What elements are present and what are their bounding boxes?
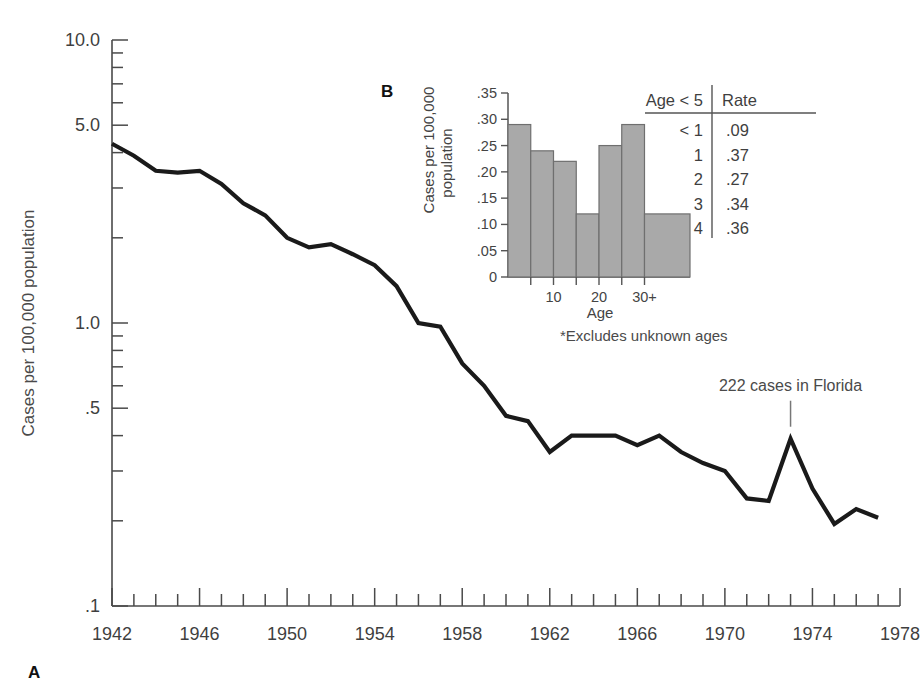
panel-a-group: 10.05.01.0.5.1 1942194619501954195819621… (19, 30, 920, 682)
panel-a-y-tick-label: .5 (85, 398, 100, 418)
panel-b-bar (554, 161, 577, 277)
annotation-label: 222 cases in Florida (719, 377, 862, 394)
panel-a-x-tick-label: 1958 (442, 624, 482, 644)
panel-b-y-tick-label: 0 (489, 269, 497, 285)
panel-b-letter: B (381, 82, 393, 101)
panel-a-x-tick-label: 1942 (92, 624, 132, 644)
figure-svg: 10.05.01.0.5.1 1942194619501954195819621… (0, 0, 921, 693)
panel-b-x-tick-labels: 102030+ (545, 289, 656, 305)
panel-a-y-tick-label: 10.0 (65, 30, 100, 50)
panel-b-y-axis-label-line2: population (438, 128, 455, 197)
table-col-header-rate: Rate (722, 91, 757, 109)
panel-b-bars (508, 125, 690, 277)
panel-b-x-tick-label: 30+ (632, 289, 657, 305)
figure-root: 10.05.01.0.5.1 1942194619501954195819621… (0, 0, 921, 693)
table-cell-rate: .34 (726, 195, 749, 213)
panel-b-bar (599, 146, 622, 277)
table-cell-rate: .36 (726, 219, 749, 237)
panel-a-x-ticks (112, 588, 900, 606)
panel-a-x-tick-label: 1954 (355, 624, 395, 644)
panel-b-y-ticks (501, 93, 508, 277)
panel-b-bar (622, 125, 645, 277)
table-cell-age: < 1 (680, 121, 703, 139)
panel-b-bar (508, 125, 531, 277)
panel-b-group: B 0.05.10.15.20.25.30.35 102030+ Cases p… (381, 82, 728, 344)
panel-a-x-tick-labels: 1942194619501954195819621966197019741978 (92, 624, 920, 644)
table-cell-rate: .09 (726, 121, 749, 139)
panel-a-x-tick-label: 1966 (617, 624, 657, 644)
panel-b-y-axis-label-line1: Cases per 100,000 (420, 87, 437, 214)
table-cell-rate: .37 (726, 146, 749, 164)
table-cell-age: 3 (694, 195, 703, 213)
panel-a-y-tick-label: 5.0 (75, 115, 100, 135)
panel-a-y-ticks (112, 40, 128, 606)
table-cell-rate: .27 (726, 170, 749, 188)
panel-b-footnote: *Excludes unknown ages (560, 327, 728, 344)
panel-a-annotation: 222 cases in Florida (719, 377, 862, 427)
table-cell-age: 2 (694, 170, 703, 188)
panel-a-y-tick-label: .1 (85, 596, 100, 616)
panel-b-y-tick-label: .30 (477, 111, 497, 127)
panel-a-y-tick-labels: 10.05.01.0.5.1 (65, 30, 100, 616)
panel-a-x-tick-label: 1974 (792, 624, 832, 644)
panel-a-y-tick-label: 1.0 (75, 313, 100, 333)
panel-a-x-tick-label: 1978 (880, 624, 920, 644)
panel-b-x-ticks (531, 277, 645, 285)
panel-b-y-tick-label: .05 (477, 243, 497, 259)
panel-a-y-axis-label: Cases per 100,000 population (19, 210, 38, 437)
panel-b-y-tick-label: .10 (477, 216, 497, 232)
panel-b-bar (576, 214, 599, 277)
panel-b-x-axis-label: Age (587, 304, 614, 321)
panel-b-y-tick-label: .15 (477, 190, 497, 206)
panel-b-bar (531, 151, 554, 277)
panel-a-x-tick-label: 1950 (267, 624, 307, 644)
panel-b-y-tick-label: .25 (477, 138, 497, 154)
panel-b-x-tick-label: 10 (545, 289, 561, 305)
table-header-row: Age < 5Rate (646, 91, 757, 109)
panel-b-y-tick-label: .35 (477, 85, 497, 101)
panel-a-x-tick-label: 1970 (705, 624, 745, 644)
panel-b-bar (645, 214, 691, 277)
panel-a-letter: A (28, 663, 40, 682)
table-cell-age: 1 (694, 146, 703, 164)
panel-a-x-tick-label: 1946 (180, 624, 220, 644)
panel-b-y-tick-label: .20 (477, 164, 497, 180)
table-cell-age: 4 (694, 219, 703, 237)
panel-b-x-tick-label: 20 (591, 289, 607, 305)
panel-b-y-tick-labels: 0.05.10.15.20.25.30.35 (477, 85, 497, 285)
panel-a-x-tick-label: 1962 (530, 624, 570, 644)
table-col-header-age: Age < 5 (646, 91, 703, 109)
